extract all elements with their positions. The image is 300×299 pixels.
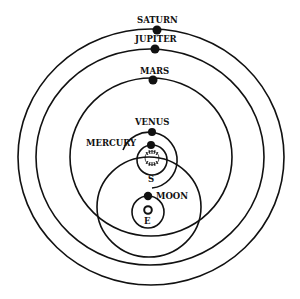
tychonic-diagram: SATURN JUPITER MARS VENUS MERCURY S MOON… <box>0 0 300 299</box>
sun-label: S <box>148 174 154 184</box>
jupiter-dot <box>151 45 160 54</box>
earth-icon <box>144 206 152 214</box>
mercury-orbit <box>137 145 167 175</box>
mars-dot <box>149 76 158 85</box>
venus-dot <box>148 128 156 136</box>
mercury-label: MERCURY <box>86 138 137 148</box>
earth-label: E <box>144 216 151 226</box>
saturn-label: SATURN <box>137 15 178 25</box>
moon-label: MOON <box>156 191 188 201</box>
mercury-dot <box>147 141 155 149</box>
venus-label: VENUS <box>134 117 169 127</box>
moon-dot <box>144 192 152 200</box>
mars-label: MARS <box>140 66 169 76</box>
jupiter-label: JUPITER <box>134 34 178 44</box>
